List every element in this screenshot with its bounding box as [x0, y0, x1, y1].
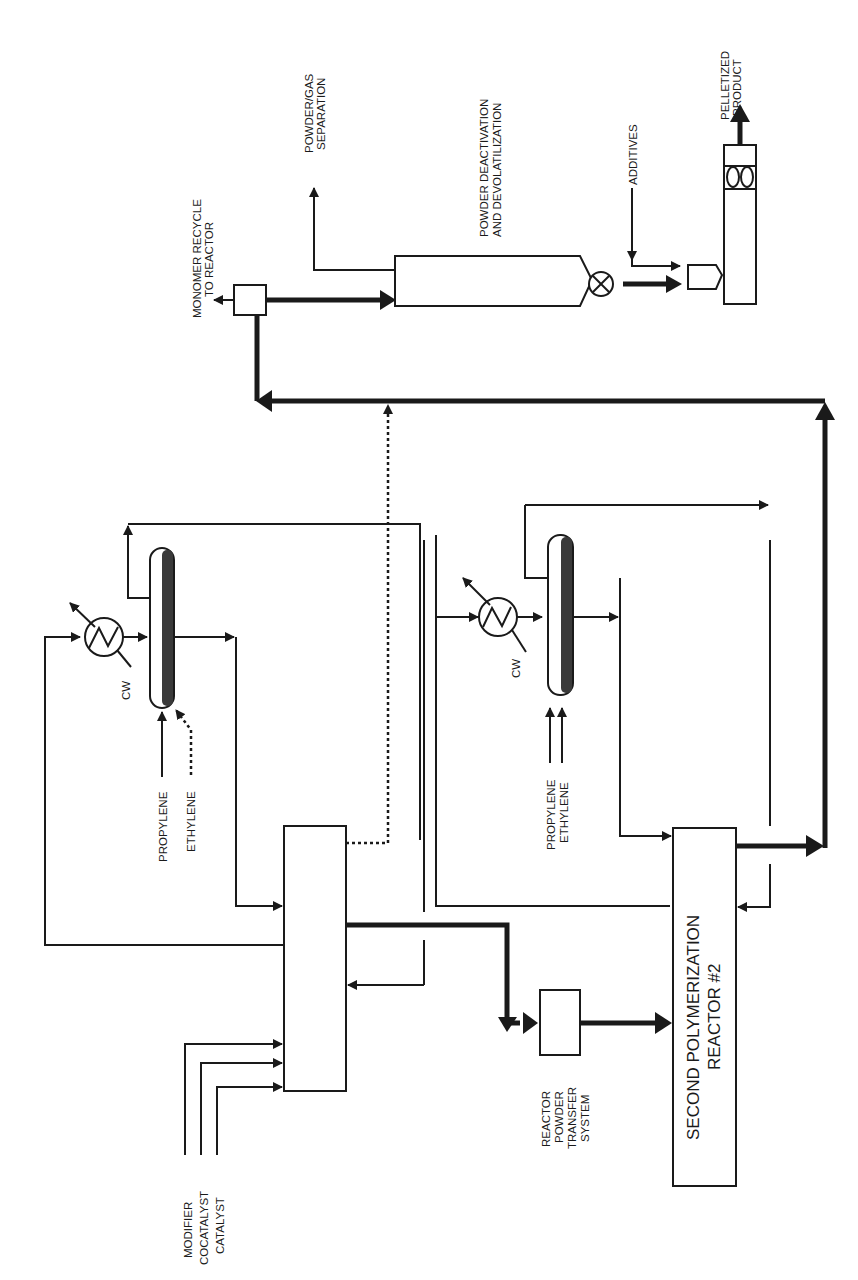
powder-gas-label-line1: POWDER/GAS [303, 73, 315, 153]
propylene-label-2: PROPYLENE [545, 779, 557, 850]
catalyst-feed-lines [185, 1044, 282, 1155]
pelletized-label-line2: PRODUCT [731, 59, 743, 116]
reactor2-recirc-line [436, 617, 478, 645]
transfer-label-line4: SYSTEM [579, 1095, 591, 1142]
cw-label-2: CW [510, 659, 522, 678]
flash-drum-2 [548, 535, 573, 695]
pellet-cutter-right [741, 167, 753, 187]
monomer-recycle-label-line2: TO REACTOR [203, 222, 215, 297]
deactivation-label-line2: AND DEVOLATILIZATION [491, 103, 503, 237]
powder-deactivation-vessel [395, 256, 592, 306]
powder-deactivation-label: POWDER DEACTIVATION AND DEVOLATILIZATION [478, 99, 503, 237]
monomer-recycle-label: MONOMER RECYCLE TO REACTOR [191, 199, 215, 318]
drum2-top-vent-line [525, 505, 548, 578]
additives-label: ADDITIVES [627, 124, 639, 185]
reactor2-label-line2: REACTOR #2 [705, 964, 724, 1070]
powder-gas-separator [234, 285, 266, 315]
cocatalyst-label: COCATALYST [198, 1191, 210, 1265]
pelletized-label-line1: PELLETIZED [719, 51, 731, 120]
ethylene-feed-line-1 [176, 710, 191, 775]
reactor1-to-transfer-line [346, 925, 520, 1023]
drum1-to-reactor1-line [236, 637, 282, 906]
heat-exchanger-1 [70, 603, 131, 667]
transfer-system-label: REACTOR POWDER TRANSFER SYSTEM [540, 1087, 591, 1149]
reactor2-label-line1: SECOND POLYMERIZATION [684, 915, 703, 1140]
catalyst-label: CATALYST [214, 1197, 226, 1254]
monomer-recycle-label-line1: MONOMER RECYCLE [191, 199, 203, 318]
rotary-valve [589, 272, 613, 296]
cw-label-1: CW [120, 681, 132, 700]
reactor2-right-vertical-lower [738, 864, 770, 907]
modifier-label: MODIFIER [182, 1202, 194, 1258]
transfer-label-line1: REACTOR [540, 1091, 552, 1147]
drum1-top-vent-line [128, 526, 150, 598]
valve-to-extruder-arrow [666, 275, 682, 293]
flash-drum-1 [150, 548, 174, 708]
additives-line [632, 188, 680, 266]
powder-gas-separation-label: POWDER/GAS SEPARATION [303, 73, 327, 153]
reactor1-vent-dotted-line [346, 405, 388, 843]
extruder-feed-hopper [688, 265, 722, 289]
transfer-label-line3: TRANSFER [566, 1087, 578, 1149]
powder-gas-vent-line [314, 188, 394, 270]
deactivation-label-line1: POWDER DEACTIVATION [478, 99, 490, 237]
ethylene-label-2: ETHYLENE [558, 782, 570, 843]
heat-exchanger-2 [463, 578, 526, 652]
first-reactor [284, 826, 346, 1091]
reactor-powder-transfer-system [540, 990, 580, 1055]
pellet-cutter-left [727, 167, 739, 187]
separator-to-deactivation-arrow [380, 290, 396, 310]
drum2-to-reactor2-line [620, 578, 671, 836]
ethylene-label-1: ETHYLENE [185, 791, 197, 852]
process-flow-diagram: MODIFIER COCATALYST CATALYST CW PROPYLEN… [0, 0, 858, 1280]
powder-gas-label-line2: SEPARATION [315, 78, 327, 150]
transfer-to-reactor2-arrow [655, 1012, 672, 1034]
feed-labels: MODIFIER COCATALYST CATALYST [182, 1191, 226, 1265]
propylene-label-1: PROPYLENE [157, 791, 169, 862]
transfer-arrow-right [523, 1012, 538, 1034]
transfer-label-line2: POWDER [553, 1091, 565, 1143]
reactor2-outlet-arrow [806, 835, 824, 857]
reactor2-riser-arrow [815, 402, 835, 420]
pelletized-product-label: PELLETIZED PRODUCT [719, 51, 743, 120]
